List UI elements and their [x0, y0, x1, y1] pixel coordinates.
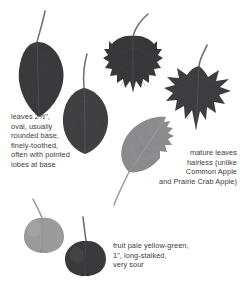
caption-mature-leaves: mature leaves hairless (unlike Common Ap… [117, 148, 237, 186]
plant-identification-plate: leaves 2½", oval, usually rounded base, … [0, 0, 243, 292]
fruit-dark-2-image [60, 215, 110, 277]
caption-leaves: leaves 2½", oval, usually rounded base, … [11, 112, 103, 170]
caption-fruit: fruit pale yellow-green, 1", long-stalke… [113, 241, 225, 270]
leaf-toothed-3-image [99, 8, 167, 118]
